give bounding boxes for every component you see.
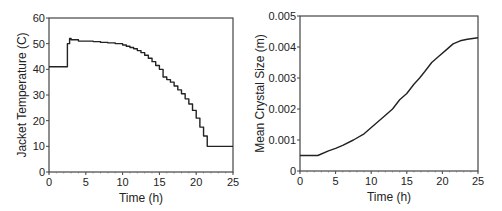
x-tick-label: 0 (297, 175, 303, 187)
data-series-line (49, 39, 233, 147)
x-tick-label: 20 (436, 175, 448, 187)
figure: 05101520250102030405060Time (h)Jacket Te… (0, 0, 502, 211)
plot-frame (49, 18, 233, 172)
x-tick-label: 0 (46, 176, 52, 188)
x-axis-label: Time (h) (119, 191, 163, 205)
plot-frame (300, 16, 478, 171)
y-tick-label: 0.005 (268, 10, 296, 22)
y-tick-label: 30 (33, 89, 45, 101)
x-tick-label: 5 (83, 176, 89, 188)
data-series-line (300, 38, 478, 156)
y-axis-label: Jacket Temperature (C) (15, 32, 29, 157)
y-tick-label: 0.004 (268, 41, 296, 53)
x-tick-label: 20 (190, 176, 202, 188)
x-axis-label: Time (h) (367, 190, 411, 204)
y-tick-label: 0.003 (268, 72, 296, 84)
x-tick-label: 15 (401, 175, 413, 187)
y-tick-label: 10 (33, 140, 45, 152)
y-tick-label: 50 (33, 38, 45, 50)
y-tick-label: 40 (33, 63, 45, 75)
mean-crystal-size-chart: 051015202500.0010.0020.0030.0040.005Time… (253, 10, 484, 204)
y-axis-label: Mean Crystal Size (m) (253, 34, 267, 153)
x-tick-label: 25 (227, 176, 239, 188)
x-tick-label: 15 (153, 176, 165, 188)
x-tick-label: 5 (333, 175, 339, 187)
y-tick-label: 0.002 (268, 103, 296, 115)
y-tick-label: 0 (39, 166, 45, 178)
y-tick-label: 20 (33, 115, 45, 127)
x-tick-label: 10 (116, 176, 128, 188)
y-tick-label: 60 (33, 12, 45, 24)
jacket-temperature-chart: 05101520250102030405060Time (h)Jacket Te… (15, 12, 239, 205)
y-tick-label: 0.001 (268, 134, 296, 146)
y-tick-label: 0 (290, 165, 296, 177)
x-tick-label: 10 (365, 175, 377, 187)
x-tick-label: 25 (472, 175, 484, 187)
